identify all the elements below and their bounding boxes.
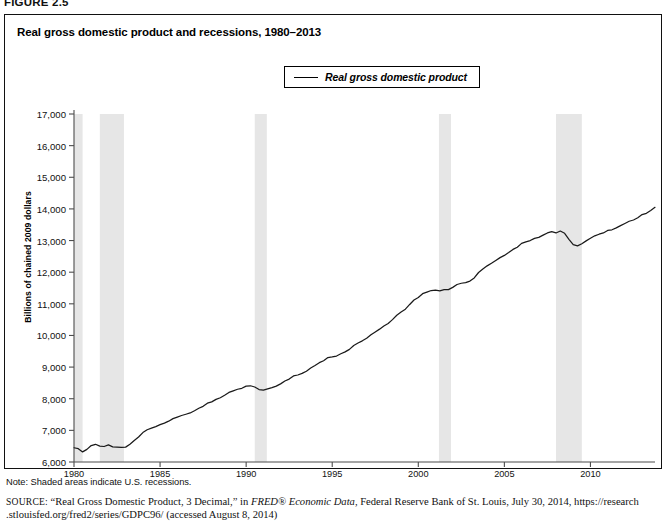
- recession-band: [74, 114, 83, 462]
- y-axis-tick-label: 12,000: [22, 267, 66, 278]
- source-publication-name: FRED® Economic Data: [251, 496, 355, 507]
- y-axis-tick-label: 7,000: [22, 425, 66, 436]
- y-axis-tick-label: 6,000: [22, 457, 66, 468]
- x-axis-tick-label: 2010: [580, 469, 600, 479]
- legend-item-label: Real gross domestic product: [325, 71, 467, 83]
- x-axis-tick-label: 1990: [236, 469, 256, 479]
- y-axis-tick-label: 10,000: [22, 330, 66, 341]
- source-text-part2: , Federal Reserve Bank of St. Louis, Jul…: [355, 496, 639, 507]
- x-axis-tick-label: 2005: [494, 469, 514, 479]
- legend-line-swatch: [294, 77, 318, 78]
- y-axis-tick-label: 15,000: [22, 172, 66, 183]
- recession-band: [255, 114, 267, 462]
- x-axis-tick-label: 1995: [322, 469, 342, 479]
- source-label: SOURCE:: [6, 496, 48, 507]
- y-axis-tick-label: 17,000: [22, 109, 66, 120]
- y-axis-tick-label: 9,000: [22, 362, 66, 373]
- recession-band: [100, 114, 124, 462]
- chart-note: Note: Shaded areas indicate U.S. recessi…: [6, 477, 191, 487]
- recession-band: [439, 114, 451, 462]
- y-axis-tick-label: 8,000: [22, 393, 66, 404]
- chart-source: SOURCE: “Real Gross Domestic Product, 3 …: [6, 495, 666, 522]
- source-text-line2: .stlouisfed.org/fred2/series/GDPC96/ (ac…: [6, 508, 666, 521]
- source-text-part1: “Real Gross Domestic Product, 3 Decimal,…: [51, 496, 251, 507]
- y-axis-tick-label: 14,000: [22, 203, 66, 214]
- figure-box: Real gross domestic product and recessio…: [4, 14, 662, 469]
- x-axis-tick-label: 2000: [408, 469, 428, 479]
- figure-number: FIGURE 2.5: [4, 0, 69, 8]
- y-axis-tick-label: 13,000: [22, 235, 66, 246]
- y-axis-tick-label: 11,000: [22, 298, 66, 309]
- chart-legend: Real gross domestic product: [284, 66, 480, 88]
- y-axis-tick-label: 16,000: [22, 140, 66, 151]
- recession-band: [556, 114, 582, 462]
